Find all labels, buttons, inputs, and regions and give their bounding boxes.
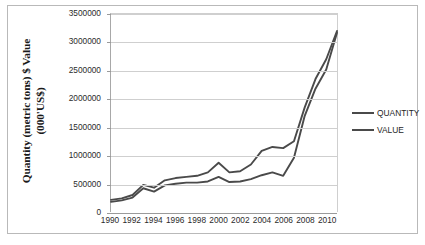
y-axis-tick-label: 500000 xyxy=(73,179,101,189)
y-axis-tick-label: 3500000 xyxy=(69,8,101,18)
x-axis-tick-label: 2000 xyxy=(209,215,227,225)
gridline xyxy=(111,71,337,72)
gridline xyxy=(111,128,337,129)
x-axis-tick-label: 1998 xyxy=(188,215,206,225)
legend-entry[interactable]: QUANTITY xyxy=(352,104,422,121)
y-axis-tick-label: 2000000 xyxy=(69,93,101,103)
data-series-lines xyxy=(111,14,337,212)
gridline xyxy=(111,156,337,157)
y-axis-tick-labels: 3500000300000025000002000000150000010000… xyxy=(52,13,105,212)
legend-swatch-icon xyxy=(352,129,374,131)
y-axis-tick-mark xyxy=(107,185,111,186)
y-axis-tick-label: 2500000 xyxy=(69,65,101,75)
chart-legend: QUANTITYVALUE xyxy=(352,104,422,138)
gridline xyxy=(111,99,337,100)
series-line-value xyxy=(111,33,337,202)
y-axis-tick-mark xyxy=(107,128,111,129)
plot-area xyxy=(110,13,338,212)
x-axis-tick-label: 2006 xyxy=(274,215,292,225)
gridline xyxy=(111,185,337,186)
x-axis-tick-labels: 1990199219941996199820002002200420062008… xyxy=(110,215,338,231)
y-axis-title-line-2: (000'US$) xyxy=(34,87,48,134)
y-axis-tick-mark xyxy=(107,99,111,100)
y-axis-tick-label: 1000000 xyxy=(69,150,101,160)
gridline xyxy=(111,213,337,214)
y-axis-title-line-1: Quantity (metric tons) $ Value xyxy=(20,39,34,183)
x-axis-tick-label: 2002 xyxy=(231,215,249,225)
x-axis-tick-label: 1992 xyxy=(122,215,140,225)
gridline xyxy=(111,42,337,43)
legend-label: QUANTITY xyxy=(377,108,419,118)
chart-figure: Quantity (metric tons) $ Value (000'US$)… xyxy=(0,0,425,245)
y-axis-tick-mark xyxy=(107,71,111,72)
y-axis-tick-mark xyxy=(107,213,111,214)
legend-entry[interactable]: VALUE xyxy=(352,121,422,138)
gridline xyxy=(111,14,337,15)
x-axis-tick-label: 2008 xyxy=(296,215,314,225)
x-axis-tick-label: 2010 xyxy=(318,215,336,225)
y-axis-tick-label: 1500000 xyxy=(69,122,101,132)
x-axis-tick-label: 1996 xyxy=(166,215,184,225)
x-axis-tick-label: 1994 xyxy=(144,215,162,225)
y-axis-tick-label: 3000000 xyxy=(69,36,101,46)
series-line-quantity xyxy=(111,31,337,200)
y-axis-title: Quantity (metric tons) $ Value (000'US$) xyxy=(16,16,52,206)
y-axis-tick-mark xyxy=(107,156,111,157)
legend-swatch-icon xyxy=(352,112,374,114)
legend-label: VALUE xyxy=(377,125,404,135)
y-axis-tick-mark xyxy=(107,14,111,15)
x-axis-tick-label: 2004 xyxy=(253,215,271,225)
y-axis-tick-mark xyxy=(107,42,111,43)
x-axis-tick-label: 1990 xyxy=(101,215,119,225)
